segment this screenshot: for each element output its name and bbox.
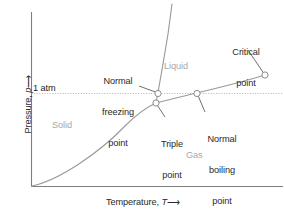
annotation-triple-point-line-1: Triple bbox=[153, 139, 191, 149]
y-axis-title-variable: p bbox=[23, 88, 33, 93]
y-axis-title-text: Pressure, bbox=[23, 93, 33, 134]
annotation-normal-boiling-point-line-3: point bbox=[198, 196, 246, 206]
annotation-normal-freezing-point: Normal freezing point bbox=[92, 55, 144, 169]
annotation-normal-freezing-point-line-2: freezing bbox=[92, 107, 144, 117]
region-label-solid: Solid bbox=[52, 120, 72, 130]
annotation-critical-point-line-2: point bbox=[224, 78, 268, 88]
annotation-triple-point-line-2: point bbox=[153, 170, 191, 180]
marker-triple-point[interactable] bbox=[153, 100, 159, 106]
annotation-critical-point-line-1: Critical bbox=[224, 47, 268, 57]
fusion-curve bbox=[156, 4, 172, 103]
annotation-normal-freezing-point-line-3: point bbox=[92, 138, 144, 148]
annotation-critical-point: Critical point bbox=[224, 26, 268, 109]
marker-normal-boiling-point[interactable] bbox=[194, 90, 200, 96]
phase-diagram: Pressure, p⟶ 1 atm Temperature, T⟶ Solid… bbox=[0, 0, 284, 216]
marker-normal-freezing-point[interactable] bbox=[155, 90, 161, 96]
annotation-normal-boiling-point-line-1: Normal bbox=[198, 134, 246, 144]
annotation-triple-point: Triple point bbox=[153, 118, 191, 201]
y-axis-arrow-icon: ⟶ bbox=[23, 75, 33, 88]
leader-line-triple-point bbox=[158, 106, 166, 118]
y-tick-label-1atm: 1 atm bbox=[33, 83, 55, 93]
y-axis-title: Pressure, p⟶ bbox=[23, 52, 33, 156]
annotation-normal-boiling-point: Normal boiling point bbox=[198, 113, 246, 216]
annotation-normal-boiling-point-line-2: boiling bbox=[198, 165, 246, 175]
annotation-normal-freezing-point-line-1: Normal bbox=[92, 76, 144, 86]
region-label-liquid: Liquid bbox=[164, 61, 188, 71]
leader-line-normal-boiling-point bbox=[198, 96, 205, 113]
